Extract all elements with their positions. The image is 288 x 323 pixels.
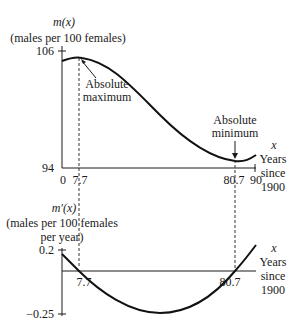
bottom-fn-label: m′(x) [52,201,77,215]
top-y-tick-label-max: 106 [36,44,54,58]
chart-canvas: m(x) (males per 100 females) 106 94 0 7.… [0,0,288,323]
max-label-line1: Absolute [85,77,128,91]
bottom-unit-label-2: per year) [41,230,84,244]
top-x-var: x [270,138,277,152]
min-label-line2: minimum [212,126,259,140]
top-x-tick-label-80-7: 80.7 [224,173,245,187]
top-y-tick-label-min: 94 [42,161,54,175]
bottom-x-unit-3: 1900 [261,283,285,297]
top-x-unit-1: Years [260,152,287,166]
bottom-unit-label-1: (males per 100 females [6,216,118,230]
bottom-y-tick-label-min: −0.25 [26,307,54,321]
min-arrowhead-icon [232,153,238,159]
top-x-tick-label-0: 0 [60,173,66,187]
top-unit-label: (males per 100 females) [10,31,126,45]
top-fn-label: m(x) [53,15,75,29]
bottom-y-tick-label-max: 0.2 [39,243,54,257]
bottom-x-var: x [270,241,277,255]
top-x-unit-3: 1900 [261,180,285,194]
top-curve-m [62,58,256,162]
max-arrow-icon [82,61,96,78]
top-x-unit-2: since [261,166,286,180]
max-label-line2: maximum [83,90,132,104]
bottom-x-unit-1: Years [260,255,287,269]
min-label-line1: Absolute [213,113,256,127]
max-arrowhead-icon [81,59,86,64]
top-x-tick-label-7-7: 7.7 [73,173,88,187]
bottom-x-unit-2: since [261,269,286,283]
